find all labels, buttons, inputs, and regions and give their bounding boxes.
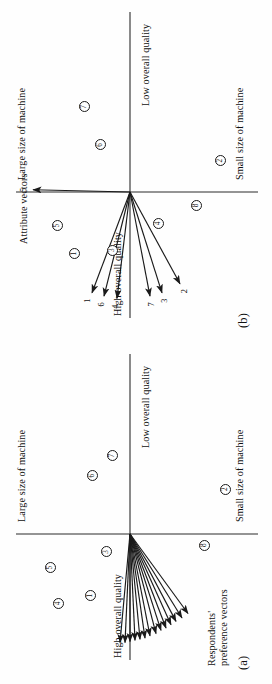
data-point: 5 <box>45 562 56 573</box>
data-point: 7 <box>107 450 118 461</box>
data-point: 2 <box>220 484 231 495</box>
data-point: 5 <box>52 220 63 231</box>
vector-label: 7 <box>147 302 156 306</box>
data-point: 6 <box>95 139 106 150</box>
panel-b-axis-caption-right: Low overall quality <box>140 24 151 106</box>
vector-label: 2 <box>180 289 189 293</box>
panel-b: (b) Large size of machine Small size of … <box>0 0 272 342</box>
panel-a: (a) Large size of machine Small size of … <box>0 342 272 684</box>
data-point: 8 <box>191 200 202 211</box>
data-point: 4 <box>53 598 64 609</box>
data-point: 7 <box>79 101 90 112</box>
data-point: 3 <box>107 245 118 256</box>
vector-label: 3 <box>160 299 169 303</box>
vector-arrow <box>125 534 130 643</box>
respondent-preference-vectors <box>120 534 188 643</box>
panel-a-axis-caption-bottom: Small size of machine <box>234 430 245 522</box>
vector-label: 1 <box>83 298 92 302</box>
panel-b-axis-caption-top: Large size of machine <box>16 88 27 180</box>
panel-a-group-caption: Respondents' preference vectors <box>206 589 229 666</box>
vector-label: 4 <box>111 305 120 309</box>
vector-arrow <box>130 534 188 614</box>
panel-b-group-caption: Attribute vectors <box>18 174 30 244</box>
data-point: 2 <box>215 155 226 166</box>
panel-b-group-caption-line1: Attribute vectors <box>18 174 30 244</box>
vector-label: 6 <box>97 302 106 306</box>
data-point: 6 <box>87 470 98 481</box>
panel-b-axes <box>0 0 272 342</box>
panel-a-group-caption-line2: preference vectors <box>218 589 230 666</box>
data-point: 4 <box>153 218 164 229</box>
data-point: 3 <box>101 546 112 557</box>
data-point: 1 <box>69 248 80 259</box>
data-point: 1 <box>85 590 96 601</box>
data-point: 8 <box>199 540 210 551</box>
panel-a-axis-caption-right: Low overall quality <box>140 366 151 448</box>
attribute-vectors <box>33 190 180 299</box>
panel-a-axis-caption-top: Large size of machine <box>16 430 27 522</box>
figure-stage: (a) Large size of machine Small size of … <box>0 0 272 684</box>
panel-a-axis-caption-left: High overall quality <box>112 574 123 658</box>
panel-a-axes <box>0 342 272 684</box>
vector-label: 5 <box>19 188 28 192</box>
panel-b-axis-caption-bottom: Small size of machine <box>234 88 245 180</box>
vector-arrow <box>130 534 166 628</box>
panel-a-group-caption-line1: Respondents' <box>206 589 218 666</box>
